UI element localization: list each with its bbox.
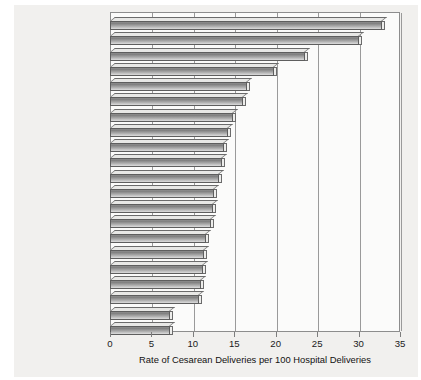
bar — [110, 109, 238, 122]
bar — [110, 291, 204, 304]
bar-front-face — [110, 234, 206, 243]
bar — [110, 93, 248, 106]
chart-figure: 05101520253035 Rate of Cesarean Deliveri… — [0, 0, 421, 380]
x-tick-mark — [151, 332, 152, 337]
bar-front-face — [110, 219, 211, 228]
bar-front-face — [110, 189, 214, 198]
bar-front-face — [110, 250, 204, 259]
bar — [110, 48, 310, 61]
x-axis-ticks: 05101520253035 — [110, 332, 400, 356]
bar-front-face — [110, 113, 233, 122]
bar-front-face — [110, 82, 247, 91]
bar — [110, 139, 229, 152]
bar-front-face — [110, 158, 222, 167]
bar — [110, 307, 175, 320]
x-tick-mark — [317, 332, 318, 337]
bar — [110, 32, 364, 45]
bar — [110, 78, 252, 91]
bar-front-face — [110, 204, 213, 213]
x-tick-mark — [110, 332, 111, 337]
bar — [110, 276, 206, 289]
bar-front-face — [110, 21, 382, 30]
x-tick-mark — [276, 332, 277, 337]
bar — [110, 17, 387, 30]
bar-front-face — [110, 143, 224, 152]
x-tick-label: 30 — [353, 338, 364, 349]
x-tick-label: 25 — [312, 338, 323, 349]
bar-front-face — [110, 174, 219, 183]
x-tick-mark — [193, 332, 194, 337]
bar-front-face — [110, 52, 305, 61]
bar — [110, 200, 218, 213]
x-tick-mark — [359, 332, 360, 337]
bar-front-face — [110, 67, 274, 76]
x-tick-label: 0 — [107, 338, 112, 349]
bar — [110, 230, 211, 243]
x-tick-label: 20 — [270, 338, 281, 349]
bar-front-face — [110, 295, 199, 304]
bar-front-face — [110, 265, 203, 274]
bar — [110, 170, 224, 183]
bar — [110, 246, 209, 259]
x-tick-label: 5 — [149, 338, 154, 349]
x-tick-label: 35 — [395, 338, 406, 349]
x-tick-mark — [234, 332, 235, 337]
x-axis-title: Rate of Cesarean Deliveries per 100 Hosp… — [110, 354, 400, 365]
bar — [110, 215, 216, 228]
bar — [110, 261, 208, 274]
x-tick-label: 15 — [229, 338, 240, 349]
x-tick-mark — [400, 332, 401, 337]
bar — [110, 124, 233, 137]
bar-front-face — [110, 36, 359, 45]
bar-front-face — [110, 128, 228, 137]
bar-front-face — [110, 280, 201, 289]
bar-front-face — [110, 97, 243, 106]
bar-series — [110, 12, 400, 332]
category-axis-labels — [0, 12, 106, 332]
bar — [110, 154, 227, 167]
bar — [110, 63, 279, 76]
bar — [110, 185, 219, 198]
x-tick-label: 10 — [188, 338, 199, 349]
gridline-35 — [401, 13, 402, 331]
bar-front-face — [110, 311, 170, 320]
